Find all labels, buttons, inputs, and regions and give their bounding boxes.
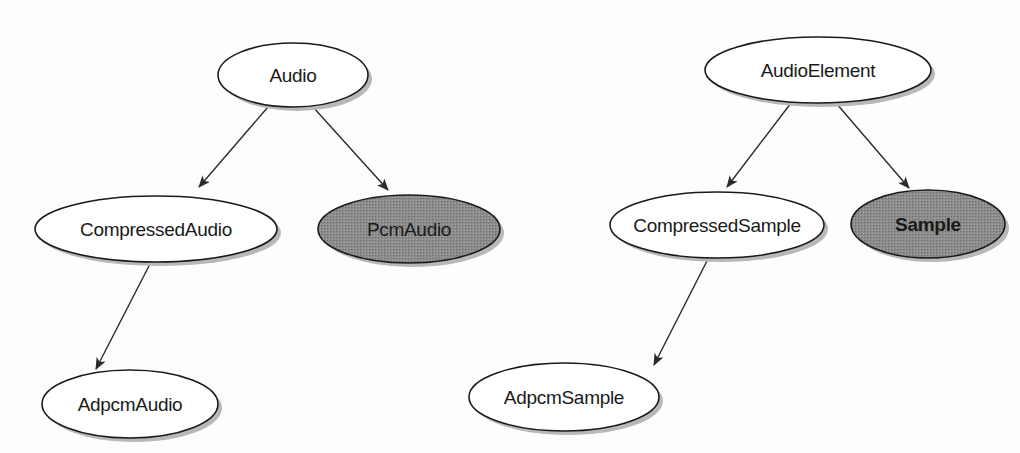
edge-audio-to-compressedaudio xyxy=(199,107,268,187)
edge-audio-to-pcmaudio xyxy=(313,107,388,190)
audio-element-hierarchy: AudioElement CompressedSample Sample Adp… xyxy=(469,37,1009,435)
edge-compressedaudio-to-adpcmaudio xyxy=(96,262,151,369)
node-compressedaudio-label: CompressedAudio xyxy=(80,219,232,240)
node-compressedaudio[interactable]: CompressedAudio xyxy=(35,196,281,266)
edge-compressedsample-to-adpcmsample xyxy=(654,257,709,365)
class-hierarchy-diagram: Audio CompressedAudio PcmAudio AdpcmAudi… xyxy=(0,0,1020,453)
node-sample-label: Sample xyxy=(895,214,961,235)
audio-hierarchy: Audio CompressedAudio PcmAudio AdpcmAudi… xyxy=(35,43,504,442)
node-audioelement-label: AudioElement xyxy=(761,60,877,81)
node-sample[interactable]: Sample xyxy=(851,190,1009,262)
edge-audioelement-to-sample xyxy=(836,103,909,188)
node-audio-label: Audio xyxy=(269,65,316,86)
node-adpcmaudio-label: AdpcmAudio xyxy=(78,394,183,415)
node-pcmaudio[interactable]: PcmAudio xyxy=(318,195,504,267)
node-adpcmsample[interactable]: AdpcmSample xyxy=(469,363,663,435)
node-audio[interactable]: Audio xyxy=(218,43,372,111)
edge-audioelement-to-compressedsample xyxy=(727,103,791,187)
node-audioelement[interactable]: AudioElement xyxy=(705,37,935,107)
node-compressedsample-label: CompressedSample xyxy=(633,215,800,236)
node-pcmaudio-label: PcmAudio xyxy=(367,219,451,240)
node-compressedsample[interactable]: CompressedSample xyxy=(610,192,828,262)
node-adpcmaudio[interactable]: AdpcmAudio xyxy=(42,370,222,442)
node-adpcmsample-label: AdpcmSample xyxy=(504,387,624,408)
